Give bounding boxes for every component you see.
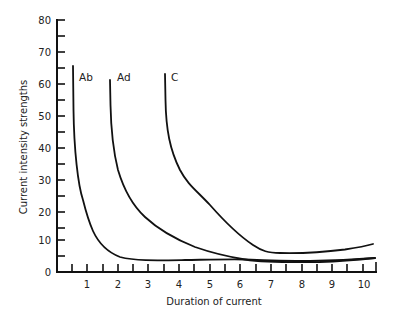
- y-tick-label: 60: [38, 79, 51, 90]
- x-tick-label: 10: [358, 279, 371, 290]
- x-tick-label: 4: [176, 279, 182, 290]
- x-tick-label: 7: [268, 279, 274, 290]
- x-tick-label: 2: [115, 279, 121, 290]
- y-tick-label: 10: [38, 235, 51, 246]
- x-tick-label: 1: [84, 279, 90, 290]
- curve-label-c: C: [171, 71, 178, 83]
- y-tick-label: 30: [38, 175, 51, 186]
- curve-label-ab: Ab: [79, 71, 93, 83]
- x-tick-label: 9: [329, 279, 335, 290]
- curve-label-ad: Ad: [117, 71, 131, 83]
- y-tick-label: 50: [38, 111, 51, 122]
- curve-c: [165, 74, 373, 253]
- x-tick-label: 6: [237, 279, 243, 290]
- y-tick-label: 80: [38, 15, 51, 26]
- y-tick-label: 20: [38, 207, 51, 218]
- y-tick-label: 0: [45, 267, 51, 278]
- y-tick-labels: 80 70 60 50 40 30 20 10 0: [38, 15, 51, 278]
- curve-ab: [73, 66, 375, 261]
- strength-duration-chart: 80 70 60 50 40 30 20 10 0 1 2 3 4 5 6 7 …: [0, 0, 394, 318]
- y-tick-label: 70: [38, 47, 51, 58]
- x-axis-title: Duration of current: [166, 296, 262, 307]
- x-tick-label: 5: [207, 279, 213, 290]
- y-tick-label: 40: [38, 143, 51, 154]
- y-axis-title: Current intensity strengths: [18, 80, 29, 215]
- y-axis-ticks: [57, 20, 65, 256]
- x-tick-label: 3: [145, 279, 151, 290]
- x-tick-labels: 1 2 3 4 5 6 7 8 9 10: [84, 279, 371, 290]
- curve-ad: [110, 80, 375, 262]
- x-tick-label: 8: [299, 279, 305, 290]
